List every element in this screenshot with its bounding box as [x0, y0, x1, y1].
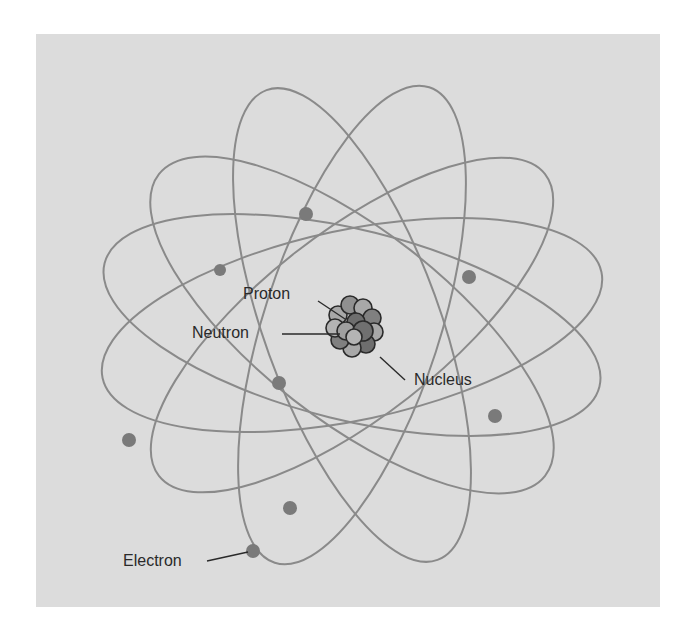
electron-label: Electron	[123, 552, 182, 570]
electron-dot	[272, 376, 286, 390]
atom-diagram	[0, 0, 695, 639]
electron-dot	[283, 501, 297, 515]
electron-dot	[488, 409, 502, 423]
electron-dot	[462, 270, 476, 284]
electron-dot	[246, 544, 260, 558]
proton-label: Proton	[243, 285, 290, 303]
nucleus-label: Nucleus	[414, 371, 472, 389]
neutron-label: Neutron	[192, 324, 249, 342]
nucleus	[326, 296, 383, 357]
electron-dot	[299, 207, 313, 221]
nucleus-leader	[380, 357, 405, 380]
electron-dot	[214, 264, 226, 276]
electron-leader	[207, 552, 248, 561]
electron-dot	[122, 433, 136, 447]
